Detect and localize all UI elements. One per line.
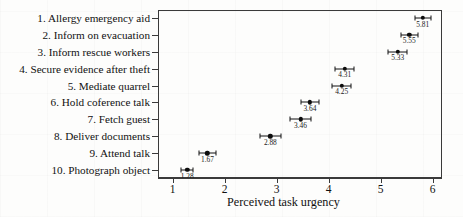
y-axis-label-3: 3. Inform rescue workers [38, 46, 150, 57]
x-axis-line [158, 178, 442, 179]
x-axis-tick-label-2: 2 [222, 183, 228, 195]
y-axis-label-4: 4. Secure evidence after theft [19, 63, 150, 74]
error-bar-cap-7-low [290, 117, 291, 122]
y-axis-tick-3 [152, 52, 158, 53]
y-axis-tick-4 [152, 69, 158, 70]
data-value-label-3: 5.33 [391, 54, 404, 62]
error-bar-cap-4-high [354, 66, 355, 71]
data-value-label-7: 3.46 [294, 122, 307, 130]
y-axis-tick-1 [152, 18, 158, 19]
x-axis-tick-label-6: 6 [430, 183, 436, 195]
data-value-label-2: 5.55 [403, 37, 416, 45]
data-value-label-1: 5.81 [416, 21, 429, 29]
data-value-label-10: 1.28 [181, 173, 194, 181]
y-axis-label-8: 8. Deliver documents [54, 131, 150, 142]
x-axis-title: Perceived task urgency [0, 195, 463, 210]
x-axis-title-text: Perceived task urgency [227, 195, 340, 209]
error-bar-cap-7-high [310, 117, 311, 122]
y-axis-label-2: 2. Inform on evacuation [43, 29, 151, 40]
error-bar-cap-3-high [407, 49, 408, 54]
y-axis-tick-5 [152, 86, 158, 87]
error-bar-cap-2-low [400, 32, 401, 37]
error-bar-cap-1-high [430, 16, 431, 21]
error-bar-cap-5-low [332, 83, 333, 88]
y-axis-tick-2 [152, 35, 158, 36]
error-bar-cap-6-high [319, 100, 320, 105]
data-value-label-8: 2.88 [264, 139, 277, 147]
y-axis-label-6: 6. Hold coference talk [51, 97, 150, 108]
y-axis-tick-7 [152, 119, 158, 120]
y-axis-tick-6 [152, 102, 158, 103]
y-axis-tick-8 [152, 136, 158, 137]
error-bar-cap-5-high [350, 83, 351, 88]
data-value-label-9: 1.67 [201, 156, 214, 164]
error-bar-cap-6-low [300, 100, 301, 105]
data-value-label-6: 3.64 [303, 105, 316, 113]
chart-figure: 1. Allergy emergency aid2. Inform on eva… [0, 0, 463, 217]
y-axis-category-labels: 1. Allergy emergency aid2. Inform on eva… [0, 10, 154, 178]
error-bar-cap-2-high [417, 32, 418, 37]
y-axis-label-9: 9. Attend talk [89, 148, 150, 159]
data-value-label-4: 4.31 [338, 71, 351, 79]
y-axis-tick-10 [152, 170, 158, 171]
error-bar-cap-4-low [335, 66, 336, 71]
data-value-label-5: 4.25 [335, 88, 348, 96]
error-bar-cap-9-high [216, 151, 217, 156]
y-axis-tick-9 [152, 153, 158, 154]
y-axis-label-5: 5. Mediate quarrel [68, 80, 150, 91]
x-axis-tick-label-4: 4 [326, 183, 332, 195]
y-axis-label-7: 7. Fetch guest [88, 114, 150, 125]
error-bar-cap-9-low [198, 151, 199, 156]
error-bar-cap-3-low [388, 49, 389, 54]
x-axis-tick-label-5: 5 [378, 183, 384, 195]
x-axis-tick-label-3: 3 [274, 183, 280, 195]
error-bar-cap-1-low [414, 16, 415, 21]
y-axis-label-1: 1. Allergy emergency aid [37, 13, 150, 24]
y-axis-label-10: 10. Photograph object [52, 165, 151, 176]
x-axis-tick-label-1: 1 [170, 183, 176, 195]
error-bar-cap-8-high [280, 134, 281, 139]
error-bar-cap-8-low [259, 134, 260, 139]
